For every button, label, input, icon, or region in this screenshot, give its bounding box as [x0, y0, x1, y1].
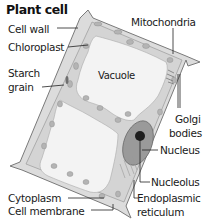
label-er-line1: Endoplasmic — [137, 192, 200, 204]
label-cytoplasm: Cytoplasm — [8, 192, 61, 204]
label-starch-grain-line2: grain — [8, 81, 34, 93]
label-cell-wall: Cell wall — [8, 23, 49, 35]
starch-grain-shape — [66, 76, 69, 84]
label-cell-membrane: Cell membrane — [8, 205, 85, 217]
diagram-title: Plant cell — [6, 2, 68, 17]
label-chloroplast: Chloroplast — [8, 41, 64, 53]
label-nucleolus: Nucleolus — [151, 176, 199, 188]
label-mitochondria: Mitochondria — [131, 16, 196, 28]
label-er-line2: reticulum — [137, 206, 184, 218]
label-golgi-line1: Golgi — [175, 113, 201, 125]
label-starch-grain-line1: Starch — [8, 67, 40, 79]
label-golgi-line2: bodies — [169, 127, 202, 139]
label-vacuole: Vacuole — [98, 70, 135, 82]
label-nucleus: Nucleus — [160, 144, 200, 156]
